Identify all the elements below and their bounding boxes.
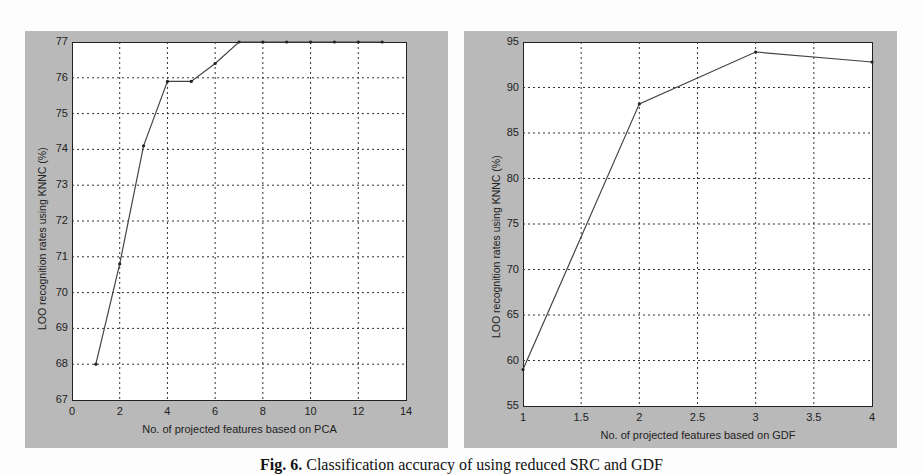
y-tick-label: 55 [497, 399, 519, 411]
x-tick-label: 3 [746, 411, 766, 423]
figure-caption-text: Classification accuracy of using reduced… [306, 456, 663, 473]
x-tick-label: 3.5 [804, 411, 824, 423]
x-tick-label: 4 [862, 411, 882, 423]
gdf-chart-lines [0, 0, 923, 475]
x-tick-label: 1.5 [571, 411, 591, 423]
x-tick-label: 1 [513, 411, 533, 423]
x-tick-label: 2.5 [688, 411, 708, 423]
figure-caption: Fig. 6. Classification accuracy of using… [0, 456, 923, 474]
y-tick-label: 95 [497, 35, 519, 47]
y-tick-label: 85 [497, 126, 519, 138]
y-tick-label: 65 [497, 308, 519, 320]
gdf-chart-x-axis-label: No. of projected features based on GDF [523, 429, 873, 441]
y-tick-label: 75 [497, 217, 519, 229]
figure-caption-label: Fig. 6. [260, 456, 302, 473]
y-tick-label: 90 [497, 81, 519, 93]
y-tick-label: 80 [497, 172, 519, 184]
y-tick-label: 70 [497, 263, 519, 275]
x-tick-label: 2 [629, 411, 649, 423]
y-tick-label: 60 [497, 354, 519, 366]
